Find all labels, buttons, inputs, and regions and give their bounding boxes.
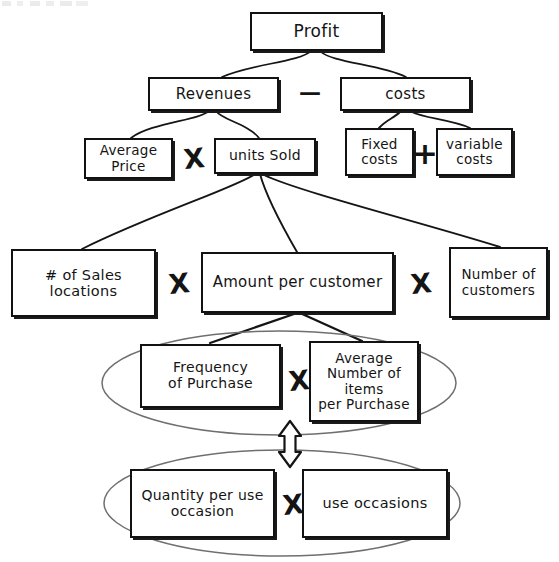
node-number-customers-label: Number of customers — [458, 267, 538, 297]
operator-minus-revenues-costs: — — [293, 78, 327, 108]
times-glyph: X — [409, 266, 433, 299]
connector-units-number-customers — [264, 175, 500, 247]
connector-revenues-units-sold — [216, 111, 259, 138]
operator-times-frequency-items: X — [284, 364, 315, 397]
node-fixed-costs-label: Fixed costs — [358, 137, 401, 167]
node-amount-per-customer-label: Amount per customer — [210, 274, 386, 291]
node-variable-costs[interactable]: variable costs — [436, 128, 513, 176]
connector-revenues-average-price — [131, 111, 209, 138]
times-glyph: X — [167, 266, 191, 299]
connector-amount-frequency — [210, 313, 297, 343]
node-profit[interactable]: Profit — [250, 12, 383, 51]
node-amount-per-customer[interactable]: Amount per customer — [201, 252, 394, 313]
connector-costs-variable — [412, 112, 470, 128]
node-quantity-per-use-label: Quantity per use occasion — [138, 488, 266, 519]
node-units-sold-label: units Sold — [226, 148, 304, 164]
double-headed-arrow — [279, 421, 301, 467]
times-glyph: X — [281, 487, 305, 520]
node-revenues-label: Revenues — [173, 86, 255, 103]
node-sales-locations-label: # of Sales locations — [42, 267, 125, 299]
connector-profit-costs — [320, 51, 406, 77]
connector-profit-revenues — [222, 51, 311, 77]
scan-artifact — [2, 1, 88, 6]
node-average-price[interactable]: Average Price — [84, 138, 173, 179]
node-fixed-costs[interactable]: Fixed costs — [345, 128, 414, 176]
times-glyph: X — [287, 363, 311, 396]
node-sales-locations[interactable]: # of Sales locations — [11, 249, 156, 317]
node-quantity-per-use[interactable]: Quantity per use occasion — [130, 469, 275, 538]
node-use-occasions-label: use occasions — [319, 495, 430, 511]
plus-glyph: + — [412, 135, 438, 171]
minus-glyph: — — [299, 82, 321, 104]
node-avg-items-label: Average Number of items per Purchase — [315, 351, 413, 411]
operator-times-price-units: X — [176, 140, 211, 175]
node-frequency-purchase[interactable]: Frequency of Purchase — [140, 344, 281, 408]
times-glyph: X — [182, 141, 206, 174]
node-variable-costs-label: variable costs — [443, 137, 506, 167]
profit-tree-diagram: Profit Revenues — costs Average Price X … — [0, 0, 559, 562]
node-profit-label: Profit — [290, 22, 342, 41]
node-number-customers[interactable]: Number of customers — [449, 247, 548, 318]
node-units-sold[interactable]: units Sold — [214, 138, 316, 174]
operator-times-amount-customers: X — [403, 265, 438, 300]
operator-plus-fixed-variable: + — [413, 137, 437, 169]
connector-units-sales-locations — [82, 174, 255, 249]
node-costs-label: costs — [382, 86, 428, 103]
connector-amount-avg-items — [300, 313, 362, 341]
node-avg-items[interactable]: Average Number of items per Purchase — [309, 341, 419, 422]
node-costs[interactable]: costs — [340, 77, 471, 111]
operator-times-locations-amount: X — [161, 265, 196, 300]
operator-times-quantity-occasions: X — [278, 488, 309, 521]
connector-costs-fixed — [379, 112, 400, 128]
node-revenues[interactable]: Revenues — [148, 77, 279, 111]
node-average-price-label: Average Price — [97, 143, 161, 173]
node-use-occasions[interactable]: use occasions — [302, 469, 448, 538]
node-frequency-purchase-label: Frequency of Purchase — [165, 360, 256, 391]
